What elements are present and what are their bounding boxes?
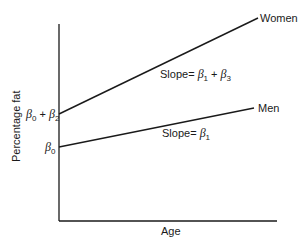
y-axis-label: Percentage fat <box>10 90 22 162</box>
regression-diagram: Percentage fat β0 + β2 β0 Women Men Slop… <box>0 0 303 247</box>
x-axis-label: Age <box>161 225 181 237</box>
women-end-label: Women <box>260 12 298 24</box>
women-intercept-label: β0 + β2 <box>26 108 59 125</box>
women-line <box>59 18 258 114</box>
men-slope-label: Slope= β1 <box>162 127 210 144</box>
women-slope-label: Slope= β1 + β3 <box>160 68 231 85</box>
men-intercept-label: β0 <box>45 141 55 158</box>
men-end-label: Men <box>258 102 279 114</box>
men-line <box>59 108 254 147</box>
